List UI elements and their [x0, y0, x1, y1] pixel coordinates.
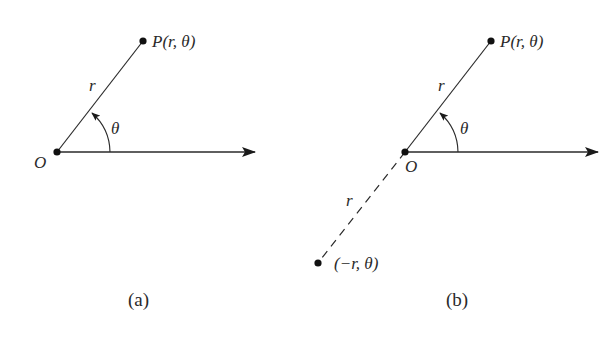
origin-label: O — [34, 153, 46, 172]
point-p-label-prefix: P — [499, 32, 510, 51]
polar-coordinates-figure: O P(r, θ) r θ (a) O P(r, θ) r θ r (−r, θ… — [0, 0, 610, 340]
angle-label: θ — [111, 119, 119, 138]
point-p-label-args: (r, θ) — [510, 32, 543, 51]
negative-point-label: (−r, θ) — [334, 254, 379, 273]
radius-segment — [57, 41, 143, 152]
point-p — [487, 37, 494, 44]
point-negative-r — [314, 259, 321, 266]
panel-b: O P(r, θ) r θ r (−r, θ) (b) — [314, 32, 598, 311]
origin-point — [401, 148, 408, 155]
point-p-label: P(r, θ) — [499, 32, 544, 51]
panel-b-caption: (b) — [446, 289, 468, 311]
radius-segment — [405, 41, 491, 152]
negative-radius-label: r — [346, 191, 353, 210]
angle-label: θ — [460, 119, 468, 138]
origin-point — [53, 148, 60, 155]
point-p — [139, 37, 146, 44]
angle-arc — [92, 113, 110, 152]
point-p-label-args: (r, θ) — [162, 32, 195, 51]
panel-a-caption: (a) — [128, 289, 149, 311]
point-p-label-prefix: P — [151, 32, 162, 51]
angle-arc — [440, 113, 458, 152]
radius-label: r — [89, 76, 96, 95]
panel-a: O P(r, θ) r θ (a) — [34, 32, 255, 311]
point-p-label: P(r, θ) — [151, 32, 196, 51]
origin-label: O — [405, 157, 417, 176]
radius-label: r — [438, 76, 445, 95]
negative-radius-segment — [318, 152, 405, 263]
